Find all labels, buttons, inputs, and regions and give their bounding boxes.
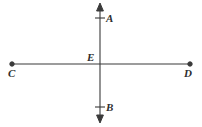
endpoint-dot-c <box>10 62 14 66</box>
arrowhead-up-icon <box>97 3 104 11</box>
point-label-e: E <box>87 52 94 63</box>
arrowhead-down-icon <box>97 115 104 123</box>
point-label-d: D <box>184 68 192 79</box>
endpoint-dot-d <box>188 62 192 66</box>
point-label-b: B <box>106 102 113 113</box>
figure-svg <box>0 0 202 127</box>
geometry-figure: A B C D E <box>0 0 202 127</box>
point-label-c: C <box>8 68 15 79</box>
point-label-a: A <box>106 13 113 24</box>
